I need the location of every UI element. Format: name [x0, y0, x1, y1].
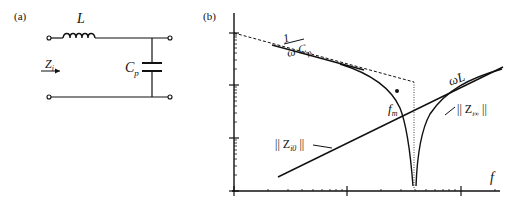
impedance-infinity-curve-left — [340, 64, 413, 186]
capacitor-label: Cp — [125, 60, 139, 78]
terminal-top-left — [47, 36, 51, 40]
zi0-leader — [313, 145, 332, 148]
inductive-asymptote — [278, 67, 503, 177]
capacitive-asymptote-label: 1 ω Cp — [282, 31, 313, 63]
capacitive-asymptote — [234, 33, 414, 82]
inductor-icon — [63, 34, 95, 39]
panel-a-label: (a) — [14, 10, 27, 23]
diagram-canvas: (a) L Cp Zi (b) — [0, 0, 518, 199]
inductor-label: L — [76, 11, 85, 26]
x-axis-label: f — [490, 170, 496, 185]
arrow-right-icon — [55, 69, 60, 74]
impedance-infinity-curve-right — [416, 69, 502, 186]
ziinf-leader — [445, 107, 455, 115]
circuit-panel: (a) L Cp Zi — [14, 10, 172, 99]
zi0-label: || Zi0 || — [275, 137, 304, 153]
panel-b-label: (b) — [203, 10, 216, 23]
impedance-plot-panel: (b) — [203, 10, 503, 196]
terminal-bottom-right — [168, 95, 172, 99]
fm-label: fm — [388, 101, 398, 118]
ziinf-label: || Zi∞ || — [457, 102, 487, 118]
fm-point — [395, 89, 399, 93]
terminal-bottom-left — [47, 95, 51, 99]
terminal-top-right — [168, 36, 172, 40]
